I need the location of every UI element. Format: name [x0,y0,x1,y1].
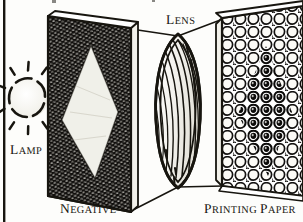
label-printing-paper: PRINTING PAPER [204,201,296,217]
negative-panel [44,11,138,216]
label-lens-initial: L [166,12,175,27]
label-paper-word2: APER [268,205,296,216]
label-paper-word1: RINTING [212,205,260,216]
label-lamp-initial: L [10,142,19,157]
figure-root: LAMP LENS NEGATIVE PRINTING PAPER [0,0,303,222]
printing-paper-panel [216,1,303,202]
label-lamp: LAMP [10,142,42,158]
label-negative-rest: EGATIVE [70,205,116,216]
label-lamp-rest: AMP [19,146,43,157]
cropped-text-remnant [52,0,155,3]
label-lens: LENS [166,12,195,28]
label-paper-initial-2: P [260,201,268,216]
label-paper-initial: P [204,201,212,216]
diagram-canvas [0,0,303,222]
label-negative: NEGATIVE [60,201,116,217]
left-column-rule [3,0,5,222]
label-negative-initial: N [60,201,70,216]
lens-element [151,34,200,188]
label-lens-rest: ENS [175,16,196,27]
